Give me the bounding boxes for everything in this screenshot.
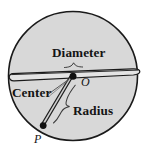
diameter-label: Diameter — [52, 45, 106, 60]
center-point-marker — [70, 73, 77, 80]
circle-diagram-figure: Diameter Center Radius O P — [0, 0, 150, 156]
circumference-point-marker — [40, 122, 47, 129]
center-label: Center — [12, 85, 51, 100]
circumference-point-label: P — [33, 132, 42, 146]
diagram-canvas: Diameter Center Radius O P — [0, 0, 150, 156]
center-point-label: O — [81, 75, 90, 89]
radius-label: Radius — [73, 103, 113, 118]
